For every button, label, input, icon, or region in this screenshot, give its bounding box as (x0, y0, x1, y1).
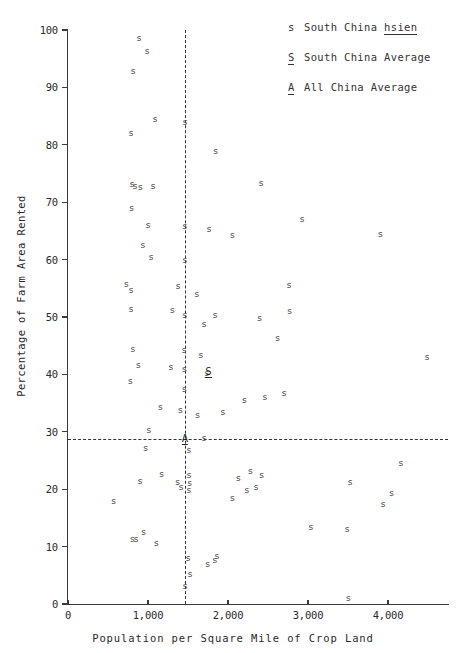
data-point-marker: s (286, 281, 292, 291)
x-tick-label-2000: 2,000 (202, 610, 254, 621)
x-tick-label-3000: 3,000 (282, 610, 334, 621)
data-point-marker: s (187, 569, 193, 579)
average-marker-A: A (182, 433, 188, 445)
data-point-marker: s (178, 482, 184, 492)
data-point-marker: s (230, 231, 236, 241)
data-point-marker: s (299, 215, 305, 225)
data-point-marker: s (194, 289, 200, 299)
data-point-marker: s (220, 407, 226, 417)
y-tick-label-30: 30 (24, 427, 58, 438)
data-point-marker: s (201, 319, 207, 329)
data-point-marker: s (212, 311, 218, 321)
data-point-marker: s (186, 445, 192, 455)
x-tick-label-4000: 4,000 (362, 610, 414, 621)
data-point-marker: s (344, 525, 350, 535)
y-tick-10 (62, 546, 67, 547)
y-tick-60 (62, 259, 67, 260)
all-china-average-horizontal-line (68, 439, 448, 440)
legend-key-S: S (288, 51, 304, 63)
data-point-marker: s (205, 559, 211, 569)
data-point-marker: s (182, 310, 188, 320)
data-point-marker: s (258, 178, 264, 188)
data-point-marker: s (201, 433, 207, 443)
y-tick-20 (62, 489, 67, 490)
data-point-marker: s (130, 67, 136, 77)
legend-row-3: AAll China Average (288, 81, 463, 94)
data-point-marker: s (146, 425, 152, 435)
data-point-marker: s (378, 230, 384, 240)
x-tick-2000 (227, 600, 228, 605)
data-point-marker: s (186, 486, 192, 496)
data-point-marker: s (130, 344, 136, 354)
data-point-marker: s (281, 388, 287, 398)
x-tick-label-0: 0 (42, 610, 94, 621)
x-tick-3000 (307, 600, 308, 605)
data-point-marker: s (181, 346, 187, 356)
data-point-marker: s (150, 181, 156, 191)
data-point-marker: s (178, 405, 184, 415)
data-point-marker: s (262, 393, 268, 403)
x-tick-4000 (387, 600, 388, 605)
y-tick-label-40: 40 (24, 369, 58, 380)
y-tick-30 (62, 431, 67, 432)
data-point-marker: s (275, 333, 281, 343)
y-tick-0 (62, 603, 67, 604)
data-point-marker: s (380, 499, 386, 509)
y-tick-label-60: 60 (24, 255, 58, 266)
data-point-marker: s (175, 281, 181, 291)
data-point-marker: s (143, 443, 149, 453)
y-tick-label-70: 70 (24, 197, 58, 208)
data-point-marker: s (308, 522, 314, 532)
data-point-marker: s (128, 304, 134, 314)
y-tick-label-100: 100 (24, 25, 58, 36)
data-point-marker: s (259, 470, 265, 480)
data-point-marker: s (287, 307, 293, 317)
data-point-marker: s (182, 581, 188, 591)
data-point-marker: s (248, 466, 254, 476)
data-point-marker: s (154, 538, 160, 548)
legend-key-s: s (288, 21, 304, 33)
data-point-marker: s (168, 362, 174, 372)
chart-legend: sSouth China hsienSSouth China AverageAA… (288, 21, 463, 111)
x-axis-title: Population per Square Mile of Crop Land (0, 632, 466, 644)
data-point-marker: s (140, 241, 146, 251)
x-axis-line (67, 604, 449, 605)
data-point-marker: s (141, 527, 147, 537)
data-point-marker: s (424, 352, 430, 362)
data-point-marker: s (253, 483, 259, 493)
data-point-marker: s (136, 360, 142, 370)
data-point-marker: s (111, 497, 117, 507)
data-point-marker: s (236, 473, 242, 483)
data-point-marker: s (133, 534, 139, 544)
data-point-marker: s (144, 46, 150, 56)
data-point-marker: s (244, 485, 250, 495)
data-point-marker: s (137, 476, 143, 486)
legend-label-1: South China hsien (304, 21, 417, 33)
y-tick-label-20: 20 (24, 484, 58, 495)
data-point-marker: s (182, 221, 188, 231)
legend-row-1: sSouth China hsien (288, 21, 463, 34)
data-point-marker: s (128, 129, 134, 139)
y-tick-50 (62, 316, 67, 317)
data-point-marker: s (242, 395, 248, 405)
data-point-marker: s (128, 377, 134, 387)
data-point-marker: s (158, 402, 164, 412)
data-point-marker: s (198, 350, 204, 360)
legend-key-A: A (288, 81, 304, 93)
data-point-marker: s (347, 478, 353, 488)
data-point-marker: s (152, 114, 158, 124)
data-point-marker: s (195, 410, 201, 420)
average-marker-S: S (205, 366, 211, 378)
y-tick-100 (62, 29, 67, 30)
data-point-marker: s (206, 224, 212, 234)
data-point-marker: s (185, 553, 191, 563)
data-point-marker: s (213, 146, 219, 156)
y-tick-label-50: 50 (24, 312, 58, 323)
y-tick-label-0: 0 (24, 599, 58, 610)
data-point-marker: s (230, 494, 236, 504)
data-point-marker: s (182, 364, 188, 374)
y-tick-70 (62, 202, 67, 203)
x-tick-label-1000: 1,000 (122, 610, 174, 621)
y-tick-label-80: 80 (24, 140, 58, 151)
data-point-marker: s (398, 458, 404, 468)
